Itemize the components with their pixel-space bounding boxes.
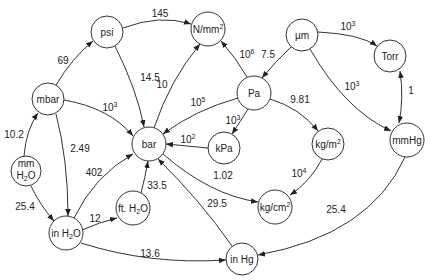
svg-text:bar: bar [142, 139, 157, 150]
edge-label-sup: 103 [102, 101, 117, 113]
edge-label: 13.6 [140, 248, 160, 259]
svg-text:mbar: mbar [37, 94, 60, 105]
svg-text:µm: µm [295, 30, 309, 41]
node-micrometer: µm [286, 19, 318, 51]
node-ft-h2o: ft. H2O [116, 191, 150, 225]
node-psi: psi [91, 16, 123, 48]
edge-label: 69 [57, 55, 69, 66]
svg-text:mm: mm [18, 158, 35, 169]
edge-label: 25.4 [15, 201, 35, 212]
svg-text:ft. H2O: ft. H2O [118, 203, 148, 215]
node-mbar: mbar [32, 83, 64, 115]
svg-text:N/mm2: N/mm2 [193, 23, 224, 35]
svg-text:kPa: kPa [215, 143, 233, 154]
edge-mbar-inh2o [56, 114, 68, 216]
svg-text:Torr: Torr [381, 51, 399, 62]
edge-um-torr [318, 32, 377, 46]
edge-label: 25.4 [326, 204, 346, 215]
edge-label: 2.49 [70, 143, 90, 154]
node-kpa: kPa [208, 132, 240, 164]
edge-mmh2o-mbar [24, 113, 38, 156]
edge-label: 145 [152, 8, 169, 19]
edge-label: 10.2 [4, 129, 24, 140]
svg-text:mmHg: mmHg [392, 135, 421, 146]
edge-label-sup: 104 [291, 167, 306, 179]
conversion-diagram: 145 69 14.5 10 106 7.5 103 103 1 103 105… [0, 0, 430, 280]
node-pa: Pa [237, 76, 271, 110]
edge-label: 1 [408, 85, 414, 96]
edge-psi-nmm2 [123, 20, 191, 28]
node-n-per-mm2: N/mm2 [191, 12, 225, 46]
edge-label: 9.81 [290, 94, 310, 105]
edge-label: 1.02 [213, 170, 233, 181]
node-kg-per-m2: kg/m2 [312, 128, 344, 160]
edge-label: 402 [86, 167, 103, 178]
svg-text:in H2O: in H2O [51, 228, 81, 240]
edge-label: 7.5 [261, 49, 275, 60]
edge-label-sup: 102 [180, 133, 195, 145]
edge-label: 10 [156, 79, 168, 90]
node-mmhg: mmHg [390, 123, 424, 157]
node-torr: Torr [374, 40, 406, 72]
node-in-hg: in Hg [226, 243, 258, 275]
edge-label: 29.5 [207, 198, 227, 209]
svg-text:psi: psi [101, 27, 114, 38]
node-mm-h2o: mm H2O [11, 156, 41, 186]
node-bar: bar [132, 127, 166, 161]
edge-label-sup: 103 [340, 20, 355, 32]
svg-text:kg/cm2: kg/cm2 [260, 201, 291, 213]
svg-text:in Hg: in Hg [230, 254, 253, 265]
node-in-h2o: in H2O [49, 216, 83, 250]
svg-text:Pa: Pa [248, 88, 261, 99]
edge-label: 33.5 [147, 180, 167, 191]
edge-mbar-bar [64, 100, 133, 136]
edge-label: 12 [89, 213, 101, 224]
edge-label-sup: 106 [239, 48, 254, 60]
edge-psi-bar [115, 46, 144, 127]
edge-label-sup: 105 [190, 96, 205, 108]
edge-torr-mmhg [399, 71, 402, 123]
node-kg-per-cm2: kg/cm2 [258, 190, 292, 224]
edge-label-sup: 103 [344, 80, 359, 92]
